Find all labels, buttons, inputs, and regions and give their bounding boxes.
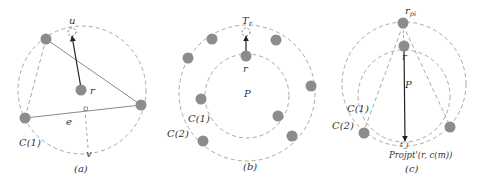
node	[198, 136, 209, 147]
node	[445, 122, 456, 133]
node	[207, 34, 218, 45]
label-rpi: rpi	[405, 5, 416, 18]
diagram-canvas: u r e v C(1) (a) Tr r P C(1) C(2) (b)	[0, 0, 484, 186]
panel-b: Tr r P C(1) C(2) (b)	[167, 15, 317, 172]
label-projection: Projpt'(r, c(m))	[388, 150, 452, 160]
panel-a: u r e v C(1) (a)	[18, 15, 147, 174]
label-e: e	[66, 116, 72, 127]
node-r	[399, 41, 410, 52]
node	[183, 53, 194, 64]
figure: u r e v C(1) (a) Tr r P C(1) C(2) (b)	[0, 0, 484, 186]
panel-c: rpi r P C(1) C(2) t_j Projpt'(r, c(m)) (…	[332, 5, 466, 174]
node	[271, 35, 282, 46]
node	[306, 81, 317, 92]
label-c1: C(1)	[347, 103, 369, 114]
node	[41, 34, 52, 45]
node	[196, 94, 207, 105]
edge-left	[25, 39, 46, 118]
node-rpi	[398, 18, 409, 29]
label-u: u	[69, 15, 75, 26]
ray	[364, 25, 403, 131]
label-r: r	[243, 63, 249, 74]
caption-b: (b)	[243, 161, 257, 172]
edge-e	[25, 105, 141, 118]
node	[359, 128, 370, 139]
label-target: Tr	[242, 15, 253, 28]
right-angle-mark	[84, 107, 88, 111]
target-u-marker	[68, 28, 76, 36]
ray	[403, 25, 450, 126]
label-tj: t_j	[400, 141, 409, 149]
node-r	[76, 85, 87, 96]
caption-c: (c)	[405, 163, 419, 174]
label-v: v	[86, 148, 92, 159]
node	[287, 131, 298, 142]
label-c1: C(1)	[19, 137, 41, 148]
node	[136, 100, 147, 111]
label-c2: C(2)	[332, 120, 354, 131]
target-marker	[242, 28, 250, 36]
caption-a: (a)	[74, 163, 88, 174]
node-r	[241, 51, 252, 62]
label-p: P	[243, 88, 251, 99]
label-p: P	[404, 79, 412, 90]
label-c2: C(2)	[167, 128, 189, 139]
perpendicular-line	[85, 109, 88, 148]
node	[20, 113, 31, 124]
label-c1: C(1)	[188, 113, 210, 124]
label-r: r	[90, 85, 96, 96]
label-r: r	[402, 51, 408, 62]
node	[273, 111, 284, 122]
